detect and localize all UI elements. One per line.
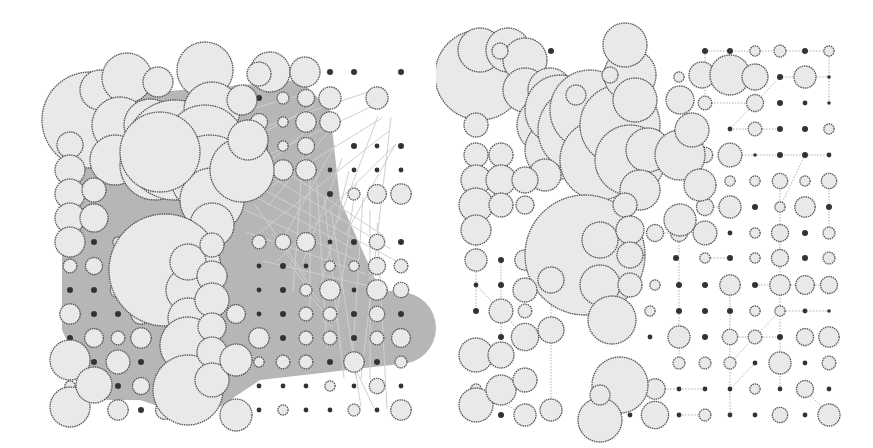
node-circle	[720, 275, 740, 295]
large-node-circle	[486, 375, 516, 405]
node-dot	[827, 309, 831, 313]
node-circle	[668, 326, 690, 348]
node-dot	[777, 100, 783, 106]
node-circle	[325, 261, 335, 271]
node-dot	[648, 335, 653, 340]
left-bubble-grid	[0, 0, 436, 448]
node-dot	[474, 283, 479, 288]
node-circle	[750, 384, 760, 394]
node-dot	[257, 312, 262, 317]
node-circle	[296, 160, 316, 180]
large-node-circle	[566, 85, 586, 105]
node-dot	[351, 311, 357, 317]
node-dot	[498, 282, 504, 288]
node-dot	[778, 387, 783, 392]
node-dot	[91, 359, 97, 365]
node-dot	[91, 287, 97, 293]
node-circle	[824, 46, 834, 56]
node-dot	[328, 240, 333, 245]
node-circle	[823, 252, 835, 264]
node-circle	[393, 282, 408, 297]
node-dot	[257, 384, 262, 389]
large-node-circle	[602, 67, 618, 83]
node-dot	[280, 287, 286, 293]
node-dot	[753, 153, 757, 157]
node-circle	[391, 400, 411, 420]
node-circle	[368, 185, 387, 204]
node-dot	[628, 413, 633, 418]
node-dot	[777, 152, 783, 158]
node-circle	[797, 381, 814, 398]
node-dot	[328, 168, 333, 173]
node-dot	[702, 282, 708, 288]
node-dot	[727, 255, 733, 261]
node-circle	[673, 357, 685, 369]
node-circle	[800, 176, 810, 186]
node-dot	[728, 231, 733, 236]
node-dot	[802, 230, 808, 236]
node-dot	[702, 308, 708, 314]
node-dot	[375, 144, 380, 149]
node-circle	[277, 92, 289, 104]
node-circle	[796, 276, 815, 295]
large-node-circle	[590, 385, 610, 405]
large-node-circle	[538, 267, 564, 293]
node-dot	[728, 387, 733, 392]
node-dot	[728, 413, 733, 418]
node-circle	[724, 357, 736, 369]
large-node-circle	[143, 67, 173, 97]
node-circle	[323, 307, 337, 321]
node-dot	[304, 384, 309, 389]
node-circle	[370, 331, 384, 345]
node-dot	[304, 408, 309, 413]
node-dot	[802, 255, 808, 261]
node-circle	[296, 112, 316, 132]
node-dot	[281, 384, 286, 389]
node-dot	[498, 412, 504, 418]
large-node-circle	[220, 344, 252, 376]
node-circle	[391, 184, 411, 204]
node-circle	[699, 357, 711, 369]
node-circle	[369, 306, 384, 321]
node-circle	[366, 87, 388, 109]
node-circle	[819, 327, 839, 347]
node-dot	[351, 335, 357, 341]
node-dot	[257, 408, 262, 413]
node-circle	[748, 330, 762, 344]
node-circle	[770, 275, 790, 295]
node-circle	[823, 227, 835, 239]
node-dot	[375, 408, 380, 413]
large-node-circle	[664, 204, 696, 236]
node-circle	[297, 233, 316, 252]
node-dot	[115, 383, 121, 389]
right-panel-network-diagram	[436, 0, 873, 448]
node-circle	[718, 143, 742, 167]
node-dot	[138, 407, 144, 413]
large-node-circle	[290, 57, 320, 87]
node-circle	[750, 253, 760, 263]
node-circle	[674, 72, 684, 82]
node-dot	[702, 334, 708, 340]
node-circle	[518, 304, 532, 318]
node-dot	[280, 263, 286, 269]
node-circle	[775, 306, 785, 316]
large-node-circle	[461, 215, 491, 245]
large-node-circle	[613, 78, 657, 122]
node-circle	[323, 331, 337, 345]
node-circle	[299, 355, 313, 369]
node-dot	[702, 48, 708, 54]
node-circle	[489, 299, 513, 323]
node-dot	[777, 74, 783, 80]
node-circle	[299, 307, 313, 321]
node-circle	[278, 117, 288, 127]
node-circle	[298, 138, 315, 155]
node-dot	[398, 311, 404, 317]
large-node-circle	[200, 233, 224, 257]
node-circle	[320, 280, 340, 300]
large-node-circle	[80, 204, 108, 232]
large-node-circle	[76, 367, 112, 403]
node-circle	[769, 352, 791, 374]
node-circle	[369, 258, 386, 275]
node-circle	[131, 328, 151, 348]
node-circle	[645, 379, 665, 399]
